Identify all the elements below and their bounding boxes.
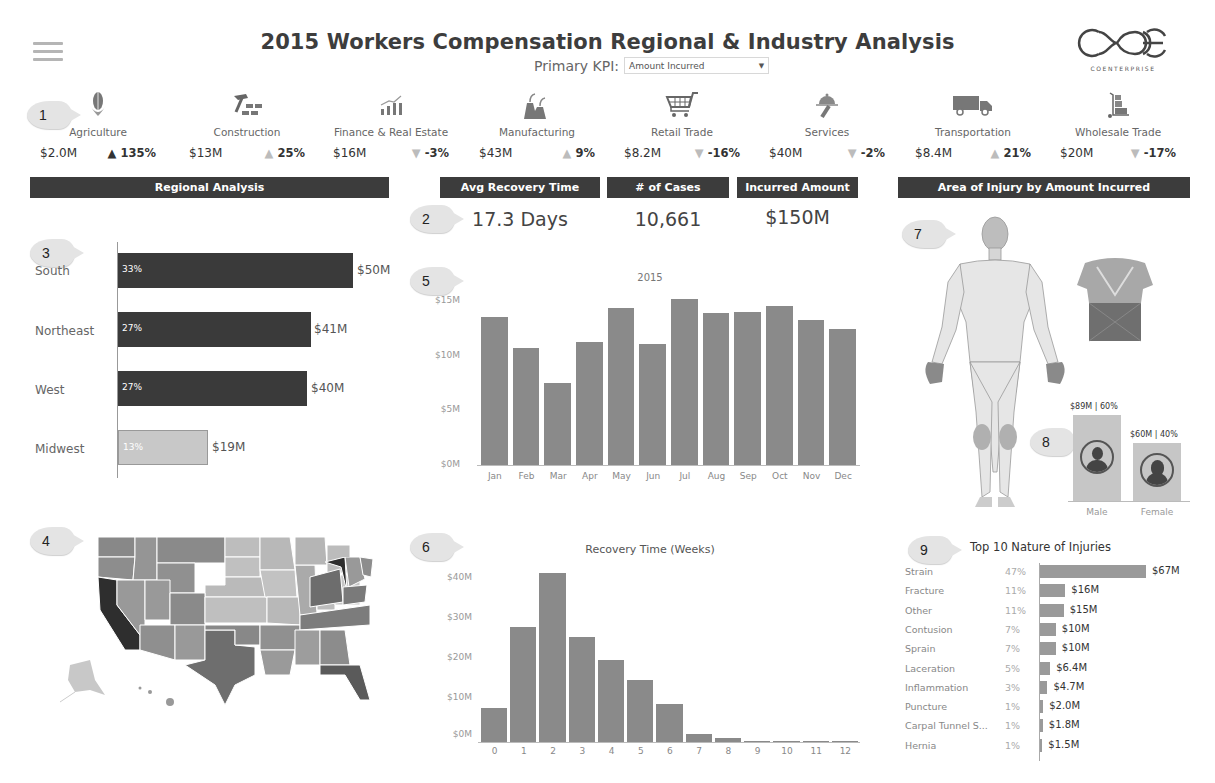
injury-row[interactable]: Carpal Tunnel S...1%$1.8M (905, 717, 1205, 736)
industry-value: $8.2M (624, 146, 661, 160)
hand-truck-icon (1058, 86, 1178, 124)
triangle-up-icon: ▲ (991, 146, 1000, 160)
industry-delta: 9% (575, 146, 595, 160)
recovery-bar[interactable] (569, 637, 595, 742)
company-logo: COENTERPRISE (1068, 26, 1178, 72)
injury-value: $6.4M (1056, 662, 1087, 673)
month-bar[interactable] (829, 329, 856, 465)
month-label: Nov (796, 471, 828, 481)
industry-name: Finance & Real Estate (331, 126, 451, 140)
back-injury-map[interactable] (1075, 255, 1155, 345)
region-bar-northeast[interactable]: 27% (118, 312, 311, 347)
injury-row[interactable]: Other11%$15M (905, 602, 1205, 621)
region-pct: 27% (122, 382, 142, 392)
industry-services[interactable]: Services $40M▼ -2% (767, 86, 887, 160)
injury-row[interactable]: Laceration5%$6.4M (905, 660, 1205, 679)
month-bar[interactable] (639, 344, 666, 465)
injury-name: Inflammation (905, 682, 995, 693)
week-label: 5 (626, 746, 655, 756)
month-bar[interactable] (513, 348, 540, 465)
industry-transportation[interactable]: Transportation $8.4M▲ 21% (913, 86, 1033, 160)
recovery-x-axis (478, 742, 860, 743)
northeast-map[interactable] (305, 557, 375, 637)
region-bar-west[interactable]: 27% (118, 371, 307, 406)
injury-bar (1040, 719, 1043, 732)
month-bar[interactable] (608, 308, 635, 465)
industry-delta: -17% (1144, 146, 1176, 160)
factory-icon (477, 86, 597, 124)
industry-finance[interactable]: Finance & Real Estate $16M▼ -3% (331, 86, 451, 160)
monthly-ytick: $5M (424, 404, 460, 414)
injury-row[interactable]: Strain47%$67M (905, 563, 1205, 582)
alaska-hawaii-map[interactable] (60, 660, 180, 720)
recovery-bar[interactable] (598, 660, 624, 743)
recovery-bar[interactable] (481, 708, 507, 742)
region-bar-midwest[interactable]: 13% (118, 430, 208, 465)
industry-agriculture[interactable]: Agriculture $2.0M▲ 135% (38, 86, 158, 160)
truck-icon (913, 86, 1033, 124)
injury-value: $1.8M (1049, 719, 1080, 730)
injury-pct: 11% (1005, 605, 1026, 616)
month-bar[interactable] (544, 383, 571, 466)
injury-row[interactable]: Contusion7%$10M (905, 621, 1205, 640)
primary-kpi-value: Amount Incurred (629, 61, 705, 71)
industry-manufacturing[interactable]: Manufacturing $43M▲ 9% (477, 86, 597, 160)
triangle-down-icon: ▼ (695, 146, 704, 160)
industry-wholesale[interactable]: Wholesale Trade $20M▼ -17% (1058, 86, 1178, 160)
injury-value: $1.5M (1048, 739, 1079, 750)
month-label: Sep (732, 471, 764, 481)
injury-row[interactable]: Puncture1%$2.0M (905, 698, 1205, 717)
recovery-bar[interactable] (686, 734, 712, 742)
recovery-bar[interactable] (656, 704, 682, 742)
recovery-ytick: $10M (436, 692, 472, 702)
month-bar[interactable] (734, 312, 761, 465)
regional-analysis-header: Regional Analysis (30, 177, 389, 198)
week-label: 4 (597, 746, 626, 756)
recovery-bar[interactable] (510, 627, 536, 743)
recovery-bar[interactable] (627, 680, 653, 742)
injury-value: $4.7M (1053, 681, 1084, 692)
monthly-x-axis (477, 465, 860, 466)
service-cloche-icon (767, 86, 887, 124)
primary-kpi-dropdown[interactable]: Amount Incurred ▼ (624, 57, 769, 74)
month-bar[interactable] (671, 299, 698, 465)
incurred-header: Incurred Amount (737, 177, 858, 198)
injury-bar (1040, 662, 1050, 675)
injury-row[interactable]: Sprain7%$10M (905, 640, 1205, 659)
region-bar-south[interactable]: 33% (118, 253, 353, 288)
body-injury-map[interactable] (920, 212, 1070, 517)
industry-name: Retail Trade (622, 126, 742, 140)
month-bar[interactable] (703, 313, 730, 465)
month-bar[interactable] (481, 317, 508, 466)
industry-retail[interactable]: Retail Trade $8.2M▼ -16% (622, 86, 742, 160)
callout-marker-3: 3 (30, 239, 75, 267)
industry-name: Services (767, 126, 887, 140)
injury-row[interactable]: Fracture11%$16M (905, 582, 1205, 601)
region-label-west: West (35, 383, 65, 397)
month-bar[interactable] (766, 306, 793, 466)
avg-recovery-header: Avg Recovery Time (440, 177, 600, 198)
injury-name: Other (905, 605, 995, 616)
injury-name: Strain (905, 566, 995, 577)
industry-delta: 21% (1003, 146, 1031, 160)
injury-row[interactable]: Hernia1%$1.5M (905, 737, 1205, 756)
growth-chart-icon (331, 86, 451, 124)
recovery-ytick: $40M (436, 572, 472, 582)
industry-name: Construction (187, 126, 307, 140)
injury-row[interactable]: Inflammation3%$4.7M (905, 679, 1205, 698)
male-bar[interactable] (1073, 415, 1121, 501)
recovery-bar[interactable] (539, 573, 565, 742)
injury-value: $10M (1062, 642, 1090, 653)
injury-pct: 1% (1005, 740, 1020, 751)
human-body-front-icon (920, 212, 1070, 517)
female-bar[interactable] (1133, 443, 1181, 501)
industry-name: Transportation (913, 126, 1033, 140)
industry-construction[interactable]: Construction $13M▲ 25% (187, 86, 307, 160)
industry-delta: -3% (425, 146, 449, 160)
injury-name: Contusion (905, 624, 995, 635)
hamburger-line (33, 58, 63, 61)
recovery-x-labels: 0123456789101112 (480, 746, 860, 758)
month-bar[interactable] (576, 342, 603, 465)
month-bar[interactable] (798, 320, 825, 465)
month-label: Jun (637, 471, 669, 481)
